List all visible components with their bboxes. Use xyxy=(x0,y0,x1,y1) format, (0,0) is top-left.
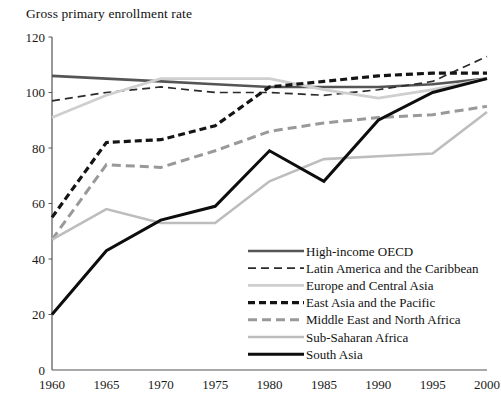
x-tick-label: 2000 xyxy=(474,377,500,392)
legend-label-2: Latin America and the Caribbean xyxy=(306,261,479,276)
x-tick-label: 1980 xyxy=(257,377,283,392)
series-line xyxy=(52,112,487,240)
y-tick-label: 20 xyxy=(32,307,45,322)
y-axis-tick-labels: 020406080100120 xyxy=(26,30,53,378)
y-tick-label: 80 xyxy=(32,141,45,156)
legend-label-7: South Asia xyxy=(306,347,363,362)
x-tick-label: 1960 xyxy=(39,377,65,392)
legend-label-5: Middle East and North Africa xyxy=(306,312,461,327)
legend-label-6: Sub-Saharan Africa xyxy=(306,330,408,345)
legend-label-4: East Asia and the Pacific xyxy=(306,295,435,310)
chart-legend: High-income OECDLatin America and the Ca… xyxy=(248,244,479,362)
chart-figure: Gross primary enrollment rate 0204060801… xyxy=(0,0,501,415)
x-axis-tick-labels: 196019651970197519801985199019952000 xyxy=(39,377,500,392)
legend-label-3: Europe and Central Asia xyxy=(306,278,434,293)
line-chart-plot: 020406080100120 196019651970197519801985… xyxy=(0,0,501,415)
y-tick-label: 60 xyxy=(32,196,45,211)
y-tick-label: 0 xyxy=(39,363,46,378)
series-line xyxy=(52,73,487,217)
y-tick-label: 120 xyxy=(26,30,46,45)
y-tick-label: 40 xyxy=(32,252,45,267)
x-tick-label: 1970 xyxy=(148,377,174,392)
x-tick-label: 1965 xyxy=(93,377,119,392)
x-tick-label: 1990 xyxy=(365,377,391,392)
y-tick-label: 100 xyxy=(26,85,46,100)
series-line xyxy=(52,106,487,239)
legend-label-1: High-income OECD xyxy=(306,244,413,259)
x-tick-label: 1985 xyxy=(311,377,337,392)
x-tick-label: 1975 xyxy=(202,377,228,392)
x-tick-label: 1995 xyxy=(420,377,446,392)
